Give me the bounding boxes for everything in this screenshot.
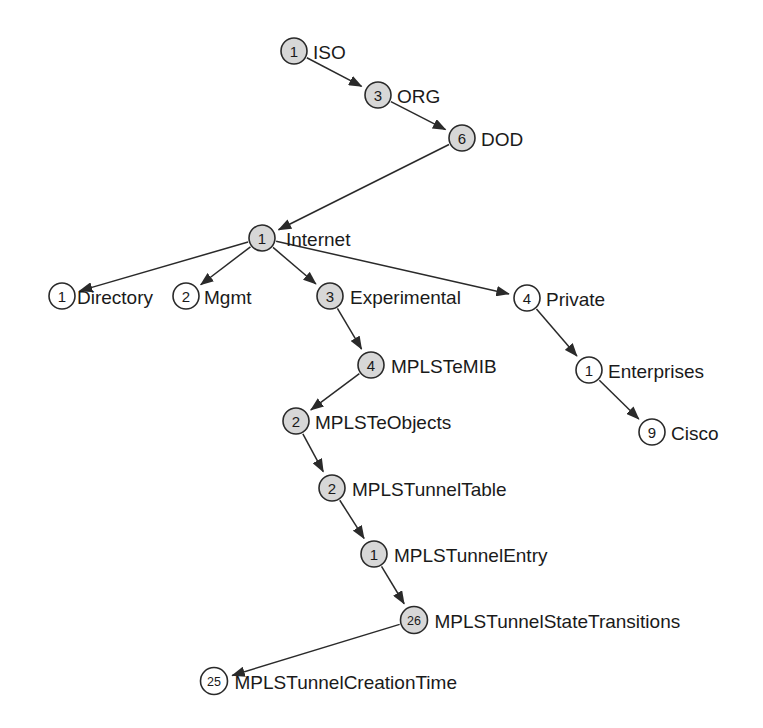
node-label-mplstunnelcreationtime: MPLSTunnelCreationTime: [235, 672, 457, 693]
tree-edge-mplstemib-to-mplsteobjects: [311, 374, 360, 410]
node-number-private: 4: [523, 290, 531, 307]
tree-node-dod[interactable]: 6DOD: [449, 125, 523, 151]
tree-node-org[interactable]: 3ORG: [365, 82, 440, 108]
node-number-mgmt: 2: [182, 288, 190, 305]
node-label-private: Private: [546, 289, 605, 310]
tree-node-directory[interactable]: 1Directory: [49, 283, 154, 309]
tree-edge-mplstunnelentry-to-mplstunnelstatetransitions: [382, 566, 405, 603]
mib-tree-diagram: 1ISO3ORG6DOD1Internet1Directory2Mgmt3Exp…: [0, 0, 763, 728]
tree-node-internet[interactable]: 1Internet: [249, 225, 351, 251]
node-number-directory: 1: [58, 288, 66, 305]
node-label-iso: ISO: [313, 42, 346, 63]
node-label-experimental: Experimental: [350, 287, 461, 308]
tree-edge-private-to-enterprises: [536, 309, 576, 356]
node-label-enterprises: Enterprises: [608, 361, 704, 382]
tree-edge-internet-to-mgmt: [201, 247, 251, 285]
node-label-org: ORG: [397, 86, 440, 107]
tree-edge-mplstunnelstatetransitions-to-mplstunnelcreationtime: [232, 624, 399, 675]
node-label-mplstunneltable: MPLSTunnelTable: [352, 479, 507, 500]
node-number-mplstunnelcreationtime: 25: [207, 675, 221, 689]
node-number-mplstemib: 4: [367, 357, 375, 374]
node-label-mplstunnelentry: MPLSTunnelEntry: [394, 545, 548, 566]
node-number-mplstunnelstatetransitions: 26: [407, 614, 421, 628]
node-label-mplsteobjects: MPLSTeObjects: [315, 412, 451, 433]
node-number-cisco: 9: [648, 424, 656, 441]
node-label-mplstunnelstatetransitions: MPLSTunnelStateTransitions: [435, 611, 681, 632]
tree-edge-internet-to-directory: [80, 242, 248, 291]
node-number-mplsteobjects: 2: [292, 413, 300, 430]
tree-edge-mplsteobjects-to-mplstunneltable: [303, 434, 323, 472]
node-number-mplstunneltable: 2: [328, 480, 336, 497]
node-label-dod: DOD: [481, 129, 523, 150]
tree-edge-experimental-to-mplstemib: [337, 308, 361, 349]
tree-node-experimental[interactable]: 3Experimental: [317, 283, 461, 309]
node-number-dod: 6: [458, 130, 466, 147]
node-label-mplstemib: MPLSTeMIB: [391, 356, 497, 377]
tree-edge-dod-to-internet: [279, 144, 449, 229]
tree-node-mgmt[interactable]: 2Mgmt: [173, 283, 252, 309]
node-number-enterprises: 1: [585, 362, 593, 379]
tree-node-private[interactable]: 4Private: [514, 285, 605, 311]
node-label-mgmt: Mgmt: [204, 287, 252, 308]
tree-node-mplsteobjects[interactable]: 2MPLSTeObjects: [283, 408, 451, 434]
node-number-iso: 1: [290, 43, 298, 60]
tree-edge-enterprises-to-cisco: [599, 380, 638, 419]
tree-node-cisco[interactable]: 9Cisco: [639, 419, 719, 445]
tree-node-mplstunnelcreationtime[interactable]: 25MPLSTunnelCreationTime: [201, 668, 457, 695]
tree-canvas: 1ISO3ORG6DOD1Internet1Directory2Mgmt3Exp…: [0, 0, 763, 728]
node-label-cisco: Cisco: [671, 423, 719, 444]
node-number-internet: 1: [258, 230, 266, 247]
node-number-org: 3: [374, 87, 382, 104]
tree-edge-internet-to-experimental: [273, 247, 316, 284]
node-number-experimental: 3: [326, 288, 334, 305]
tree-node-mplstemib[interactable]: 4MPLSTeMIB: [358, 352, 497, 378]
node-label-directory: Directory: [77, 287, 154, 308]
node-number-mplstunnelentry: 1: [370, 546, 378, 563]
node-label-internet: Internet: [286, 229, 351, 250]
nodes-layer: 1ISO3ORG6DOD1Internet1Directory2Mgmt3Exp…: [49, 38, 719, 695]
tree-node-mplstunneltable[interactable]: 2MPLSTunnelTable: [319, 475, 507, 501]
tree-node-mplstunnelstatetransitions[interactable]: 26MPLSTunnelStateTransitions: [401, 607, 681, 634]
tree-node-enterprises[interactable]: 1Enterprises: [576, 357, 704, 383]
tree-node-iso[interactable]: 1ISO: [281, 38, 346, 64]
tree-node-mplstunnelentry[interactable]: 1MPLSTunnelEntry: [361, 541, 548, 567]
tree-edge-mplstunneltable-to-mplstunnelentry: [340, 500, 364, 538]
